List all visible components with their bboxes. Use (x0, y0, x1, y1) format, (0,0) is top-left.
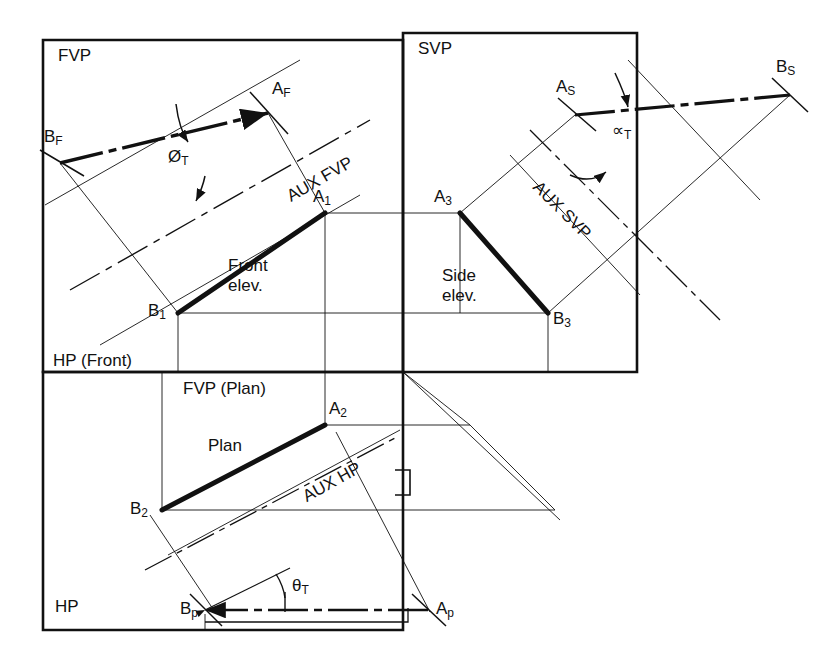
alpha-glyph: ∝ (612, 121, 624, 140)
theta-arc (276, 574, 285, 598)
phi-glyph: Ø (168, 147, 181, 166)
point-label-as: AS (556, 78, 575, 97)
label-side-elev: Side elev. (442, 266, 477, 305)
aux-fvp-fold-perp-a (45, 60, 300, 205)
ap-sub: p (447, 606, 454, 620)
alpha-sub: T (624, 128, 631, 142)
af-sub: F (283, 86, 290, 100)
label-hp-front: HP (Front) (53, 352, 132, 369)
point-label-bf: BF (44, 128, 63, 147)
as-sub: S (567, 84, 575, 98)
label-fvp: FVP (58, 47, 91, 64)
bf-tick (40, 150, 84, 176)
aux-hp-proj-a (336, 432, 430, 612)
as-base: A (556, 77, 567, 96)
b2-sub: 2 (141, 506, 148, 520)
b3-sub: 3 (564, 316, 571, 330)
bp-base: B (180, 599, 191, 618)
point-label-af: AF (272, 80, 291, 99)
projection-linework (0, 0, 838, 660)
aux-svp-group (460, 60, 808, 320)
label-angle-theta-t: θT (292, 577, 309, 596)
a2-sub: 2 (340, 406, 347, 420)
ap-base: A (436, 599, 447, 618)
a3-base: A (434, 187, 445, 206)
proj-a3-mitre (460, 213, 470, 425)
theta-ray (205, 568, 290, 610)
bs-sub: S (787, 64, 795, 78)
engineering-drawing-canvas: FVP SVP HP (Front) FVP (Plan) HP Front e… (0, 0, 838, 660)
side-elev-line2: elev. (442, 286, 477, 305)
mitre-a2-up (403, 372, 470, 425)
label-hp: HP (55, 598, 79, 615)
af-base: A (272, 79, 283, 98)
aux-svp-chain-line (530, 130, 720, 320)
aux-fvp-proj-b (60, 163, 178, 313)
label-svp: SVP (418, 40, 452, 57)
point-label-a1: A1 (313, 188, 331, 207)
true-length-line-bf-af (60, 113, 268, 163)
point-label-bp: Bp (180, 600, 198, 619)
mitre-45-line (403, 372, 560, 520)
bs-base: B (776, 57, 787, 76)
hp-frame (43, 372, 403, 630)
label-plan: Plan (208, 437, 242, 454)
b1-base: B (148, 301, 159, 320)
a2-base: A (329, 399, 340, 418)
front-elev-line1: Front (228, 256, 268, 275)
fvp-frame (43, 40, 403, 372)
point-label-a2: A2 (329, 400, 347, 419)
point-label-a3: A3 (434, 188, 452, 207)
point-label-ap: Ap (436, 600, 454, 619)
theta-sub: T (301, 583, 308, 597)
aux-hp-chain-line (145, 438, 395, 570)
bf-sub: F (55, 134, 62, 148)
b1-sub: 1 (159, 308, 166, 322)
b2-base: B (130, 499, 141, 518)
phi-sub: T (181, 154, 188, 168)
label-angle-phi-t: ØT (168, 148, 189, 167)
b3-base: B (553, 309, 564, 328)
plan-line-a2b2 (162, 425, 325, 510)
aux-hp-proj-b (150, 515, 215, 612)
bf-base: B (44, 127, 55, 146)
a1-sub: 1 (324, 194, 331, 208)
label-angle-alpha-t: ∝T (612, 122, 631, 141)
point-label-b1: B1 (148, 302, 166, 321)
aux-svp-proj-b (548, 95, 790, 313)
aux-svp-fold-perp-b (628, 60, 760, 200)
front-elev-line2: elev. (228, 276, 263, 295)
mitre-b2-up (470, 425, 555, 510)
a3-sub: 3 (445, 194, 452, 208)
bp-sub: p (191, 606, 198, 620)
label-fvp-plan: FVP (Plan) (183, 380, 266, 397)
true-length-line-as-bs (575, 95, 790, 115)
label-front-elev: Front elev. (228, 256, 268, 295)
side-elev-line1: Side (442, 266, 476, 285)
point-label-b3: B3 (553, 310, 571, 329)
alpha-arc-upper (615, 73, 628, 107)
a1-base: A (313, 187, 324, 206)
point-label-bs: BS (776, 58, 795, 77)
point-label-b2: B2 (130, 500, 148, 519)
phi-arc-lower (196, 176, 205, 201)
